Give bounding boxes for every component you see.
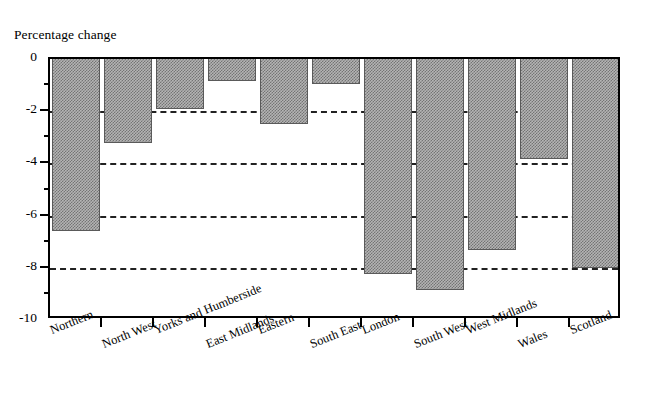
bar <box>260 59 309 124</box>
bar <box>312 59 361 84</box>
bar <box>416 59 465 290</box>
x-axis-category-label: South East <box>308 318 363 351</box>
bars-group <box>50 59 618 316</box>
bar <box>572 59 620 268</box>
x-axis-category-label: Wales <box>516 327 549 351</box>
y-axis-tick-label: -8 <box>0 259 37 273</box>
y-axis-tick-label: -6 <box>0 207 37 221</box>
y-axis-tick-label: -4 <box>0 154 37 168</box>
bar <box>52 59 101 231</box>
bar <box>520 59 569 159</box>
plot-area <box>48 57 620 318</box>
x-axis-category-label: South West <box>412 317 470 351</box>
bar <box>364 59 413 274</box>
x-axis-category-label: North West <box>100 317 158 351</box>
bar <box>208 59 257 81</box>
bar <box>104 59 153 143</box>
x-axis-category-labels: NorthernNorth WestYorks and HumbersideEa… <box>0 318 645 408</box>
y-axis-title: Percentage change <box>14 27 117 43</box>
y-axis-tick-label: -2 <box>0 102 37 116</box>
bar-chart-figure: Percentage change 0-2-4-6-8-10 NorthernN… <box>0 0 645 408</box>
bar <box>156 59 205 109</box>
y-axis-tick-label: 0 <box>0 50 37 64</box>
bar <box>468 59 517 250</box>
